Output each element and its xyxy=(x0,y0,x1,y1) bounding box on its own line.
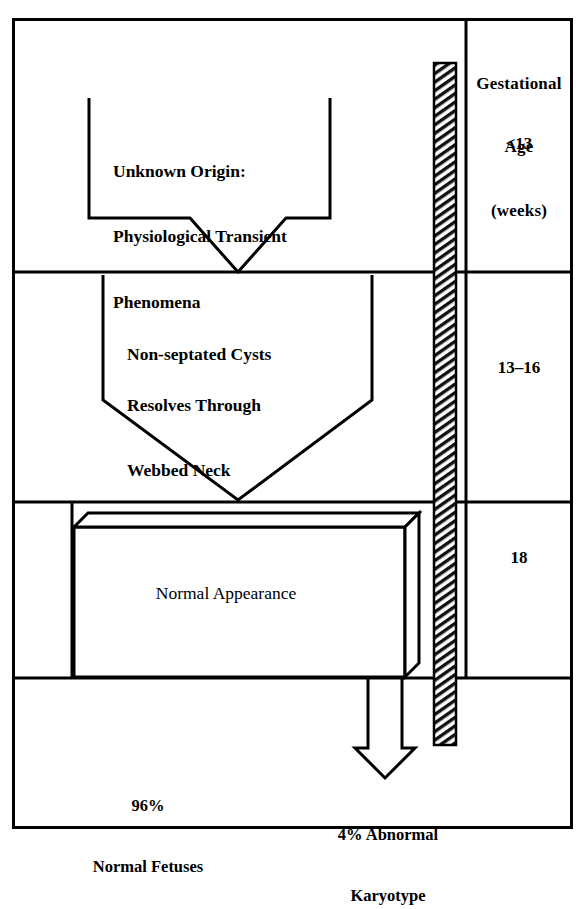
age-header-line-1: Gestational xyxy=(449,73,585,94)
outcome-abnormal-label: 4% Abnormal Karyotype xyxy=(263,784,513,909)
outcome-abnormal-line-1: 4% Abnormal xyxy=(263,825,513,845)
stage-2-line-3: Webbed Neck xyxy=(127,460,261,482)
stage-2-line-2: Resolves Through xyxy=(127,395,261,417)
age-value-row-3: 18 xyxy=(459,547,579,568)
age-value-row-1: <13 xyxy=(459,133,579,154)
age-header-line-3: (weeks) xyxy=(449,200,585,221)
age-value-row-2: 13–16 xyxy=(459,357,579,378)
stage-1-line-1: Unknown Origin: xyxy=(113,161,287,183)
outcome-normal-line-1: 96% xyxy=(28,796,268,816)
stage-resolves-label: Resolves Through Webbed Neck xyxy=(127,352,261,526)
stage-1-line-2: Physiological Transient xyxy=(113,226,287,248)
outcome-abnormal-line-2: Karyotype xyxy=(263,886,513,906)
stage-shape-box-side xyxy=(405,513,419,677)
stage-normal-appearance-label: Normal Appearance xyxy=(76,583,376,605)
outcome-normal-label: 96% Normal Fetuses xyxy=(28,755,268,909)
outcome-normal-line-2: Normal Fetuses xyxy=(28,857,268,877)
